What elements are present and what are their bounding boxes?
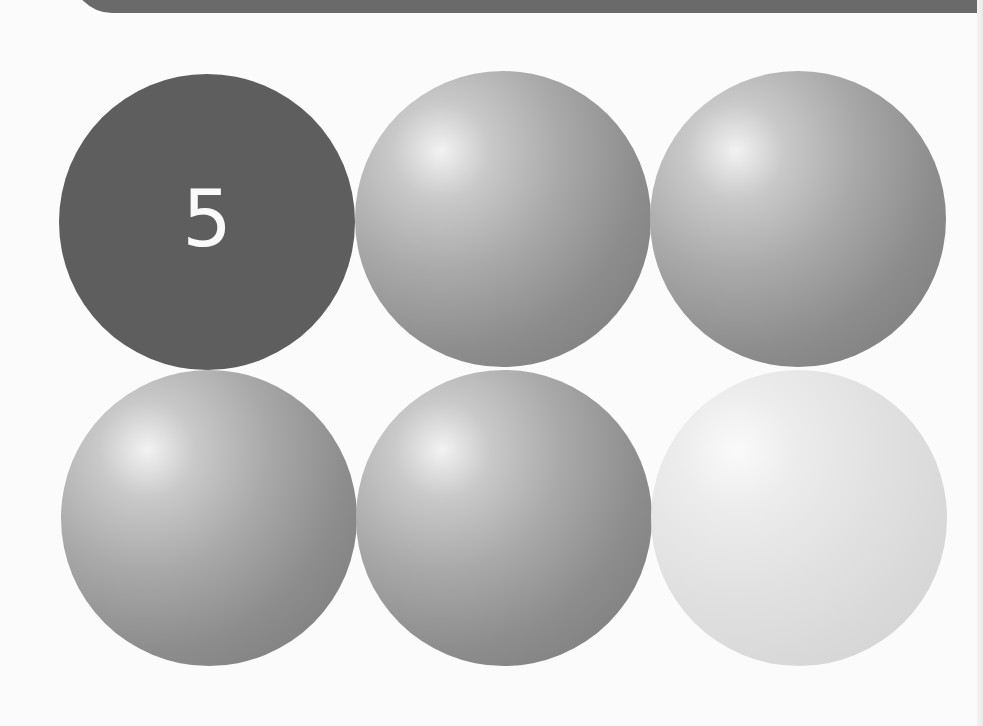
ball-1-numbered: 5 [59, 74, 355, 370]
ball-3 [650, 71, 946, 367]
ball-4 [61, 370, 357, 666]
page-edge [977, 0, 983, 726]
ball-2 [355, 71, 651, 367]
ball-5 [356, 370, 652, 666]
ball-number-label: 5 [59, 74, 355, 370]
header-banner [72, 0, 983, 13]
ball-6 [651, 370, 947, 666]
